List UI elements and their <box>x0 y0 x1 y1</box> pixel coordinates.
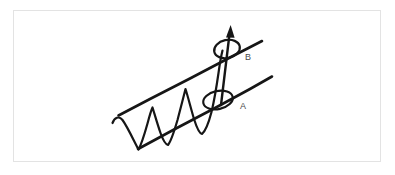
label-point-a: A <box>240 101 246 111</box>
channel-breakout-diagram: A B <box>0 0 395 175</box>
label-point-b: B <box>245 52 251 62</box>
breakout-arrow-shaft <box>221 34 230 105</box>
lower-channel-line <box>138 77 272 150</box>
price-wave-line <box>113 51 223 150</box>
figure-root: A B <box>0 0 395 175</box>
up-arrow-icon <box>226 25 235 38</box>
